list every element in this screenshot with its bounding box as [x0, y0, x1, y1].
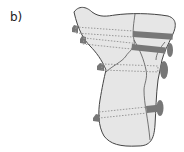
- bone-screw-diagram: [0, 0, 184, 152]
